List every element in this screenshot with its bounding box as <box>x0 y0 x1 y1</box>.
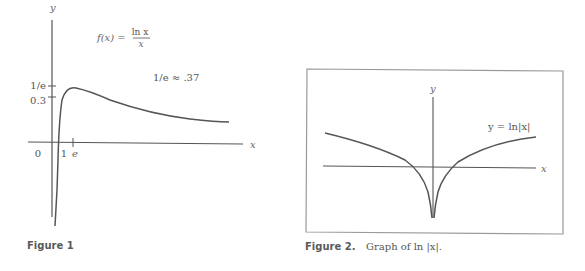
figure2-x-label: x <box>541 163 547 174</box>
figure1-y-label: y <box>49 2 56 13</box>
figure2-caption-label: Figure 2. <box>305 241 356 252</box>
figure1-x-label: x <box>250 139 256 150</box>
figure1-function-lhs: f(x) = <box>96 32 126 43</box>
figure1-function-numerator: ln x <box>132 27 149 37</box>
figure1-annotation: 1/e ≈ .37 <box>153 72 199 83</box>
figure1-curve <box>55 88 229 226</box>
figure1-tick-label-03: 0.3 <box>30 95 46 106</box>
figure2-y-label: y <box>429 83 436 94</box>
figure-2: y x y = ln|x| Figure 2. Graph of ln |x|. <box>305 69 563 253</box>
figure2-caption-text: Graph of ln |x|. <box>366 241 442 253</box>
figure1-tick-label-e: e <box>72 148 78 159</box>
figure1-tick-label-1e: 1/e <box>30 80 46 91</box>
figure1-tick-label-1: 1 <box>61 148 67 159</box>
figure1-tick-label-0: 0 <box>35 148 41 159</box>
figure1-x-axis <box>28 142 243 144</box>
figure2-curve-left <box>325 133 432 218</box>
figure2-function-label: y = ln|x| <box>487 121 530 133</box>
figure2-x-axis <box>323 166 536 168</box>
figure1-function-denominator: x <box>138 39 143 49</box>
figures-canvas: y x f(x) = ln x x 1/e ≈ .37 1/e 0.3 0 1 … <box>0 0 585 271</box>
figure2-curve-right <box>434 137 536 218</box>
figure1-caption: Figure 1 <box>27 240 74 251</box>
figure-1: y x f(x) = ln x x 1/e ≈ .37 1/e 0.3 0 1 … <box>27 2 256 251</box>
